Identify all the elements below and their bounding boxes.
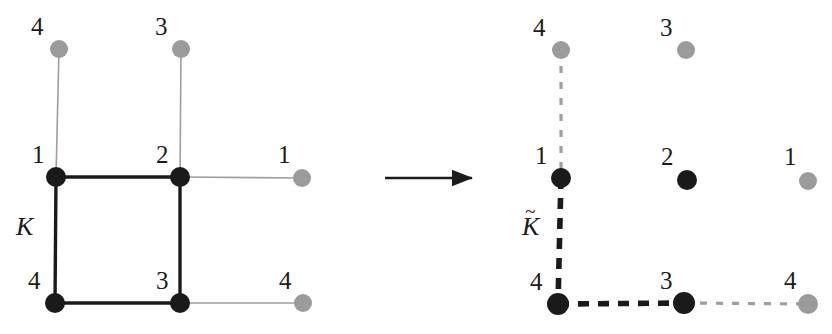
vertex-number-label: 4 [31, 14, 44, 39]
transform-arrow-canvas [340, 0, 490, 334]
figure-root: K 43121434 ~K 43121434 [0, 0, 832, 334]
graph-vertex [547, 293, 569, 315]
vertex-number-label: 1 [784, 144, 797, 169]
graph-vertex [170, 167, 190, 187]
vertex-number-label: 3 [660, 15, 673, 40]
graph-vertex [677, 41, 695, 59]
vertex-number-label: 3 [155, 14, 168, 39]
graph-vertex [677, 170, 697, 190]
arrow-panel [340, 0, 490, 334]
vertex-number-label: 4 [533, 15, 546, 40]
graph-vertex [46, 167, 66, 187]
graph-vertex [552, 41, 570, 59]
graph-vertex [172, 40, 190, 58]
vertex-number-label: 3 [660, 268, 673, 293]
vertex-number-label: 1 [32, 142, 45, 167]
k-glyph: ~K [522, 214, 539, 240]
vertex-number-label: 1 [278, 142, 291, 167]
graph-vertex [50, 40, 68, 58]
graph-vertex [551, 168, 571, 188]
graph-vertex [798, 294, 818, 314]
graph-edge [180, 49, 181, 177]
graph-vertex [799, 172, 817, 190]
graph-vertex [294, 294, 312, 312]
tilde-accent-icon: ~ [525, 202, 535, 221]
graph-edge [55, 177, 56, 303]
vertex-number-label: 2 [156, 142, 169, 167]
graph-edge [558, 303, 684, 304]
complex-label-k-tilde: ~K [522, 214, 539, 240]
graph-edge [684, 303, 808, 304]
vertex-number-label: 2 [661, 144, 674, 169]
right-diagram-panel: ~K 43121434 [490, 0, 832, 334]
vertex-number-label: 1 [535, 143, 548, 168]
graph-vertex [673, 292, 695, 314]
left-diagram-panel: K 43121434 [0, 0, 340, 334]
vertex-number-label: 4 [279, 268, 292, 293]
complex-label-k: K [16, 214, 33, 240]
vertex-number-label: 4 [28, 268, 41, 293]
vertex-number-label: 4 [784, 268, 797, 293]
vertex-number-label: 3 [156, 268, 169, 293]
graph-vertex [170, 293, 190, 313]
graph-vertex [293, 169, 311, 187]
graph-edge [180, 177, 302, 178]
graph-edge [56, 49, 59, 177]
vertex-number-label: 4 [530, 269, 543, 294]
graph-edge [558, 178, 561, 304]
graph-vertex [45, 293, 65, 313]
